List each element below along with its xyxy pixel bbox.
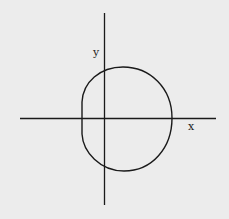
y-axis-label: y [93,47,99,58]
diagram-svg [0,0,229,219]
diagram-canvas: y x [0,0,229,219]
x-axis-label: x [188,121,194,132]
